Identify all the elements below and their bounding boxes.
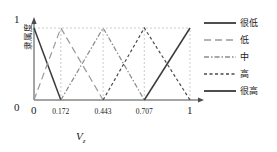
plot-area xyxy=(28,16,196,106)
legend-item-3: 高 xyxy=(203,65,277,82)
series-line-3 xyxy=(103,28,190,100)
legend-item-0: 很低 xyxy=(203,14,277,31)
y-axis-arrow xyxy=(31,17,36,24)
x-tick-label-0: 0 xyxy=(31,104,37,116)
legend-swatch-1 xyxy=(203,35,237,45)
legend-item-2: 中 xyxy=(203,48,277,65)
membership-function-chart: 隶属度 1 0 0 0.172 0.443 0.707 1 Vz 很低 低 中 … xyxy=(0,0,277,152)
x-tick-label-2: 0.443 xyxy=(95,107,112,116)
legend-label-0: 很低 xyxy=(240,16,258,29)
legend-label-2: 中 xyxy=(240,50,249,63)
x-tick-label-1: 0.172 xyxy=(52,107,69,116)
legend-swatch-3 xyxy=(203,69,237,79)
legend-swatch-0 xyxy=(203,18,237,28)
legend-label-4: 很高 xyxy=(240,84,258,97)
legend-item-1: 低 xyxy=(203,31,277,48)
legend-label-3: 高 xyxy=(240,67,249,80)
series-line-1 xyxy=(34,28,103,100)
x-axis-title-base: V xyxy=(76,130,83,142)
legend: 很低 低 中 高 很高 xyxy=(203,14,277,99)
x-tick-label-4: 1 xyxy=(187,104,193,116)
series-line-2 xyxy=(61,28,144,100)
legend-swatch-4 xyxy=(203,86,237,96)
legend-swatch-2 xyxy=(203,52,237,62)
x-tick-label-3: 0.707 xyxy=(136,107,153,116)
plot-svg xyxy=(28,16,204,112)
legend-label-1: 低 xyxy=(240,33,249,46)
x-axis-title-subscript: z xyxy=(83,137,86,145)
legend-item-4: 很高 xyxy=(203,82,277,99)
x-axis-title: Vz xyxy=(76,130,85,145)
